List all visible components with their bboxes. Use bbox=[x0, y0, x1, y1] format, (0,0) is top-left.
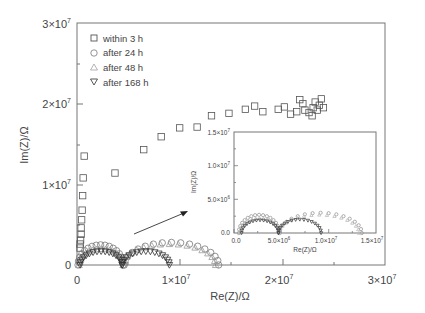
square-marker-icon bbox=[78, 217, 84, 223]
inset-plot: 0.0 5.0×106 1.0×107 1.5×107 0.0 5.0×106 … bbox=[190, 128, 384, 255]
square-marker-icon bbox=[294, 109, 300, 115]
main-y-tick-labels: 0 1×107 2×107 3×107 bbox=[42, 17, 71, 271]
square-marker-icon bbox=[208, 113, 214, 119]
triangle-down-marker-icon bbox=[91, 79, 98, 85]
y-tick-1e7: 1×107 bbox=[42, 178, 71, 191]
legend-item-after-48h: after 48 h bbox=[91, 62, 144, 73]
x-tick-0: 0 bbox=[74, 274, 80, 286]
square-marker-icon bbox=[176, 125, 182, 131]
x-tick-3e7: 3×107 bbox=[368, 273, 397, 286]
main-x-tick-labels: 0 1×107 2×107 3×107 bbox=[74, 273, 397, 286]
x-axis-title: Re(Z)/Ω bbox=[210, 290, 249, 302]
square-marker-icon bbox=[318, 96, 324, 102]
square-marker-icon bbox=[242, 106, 248, 112]
svg-text:1.0×107: 1.0×107 bbox=[207, 161, 230, 169]
x-tick-1e7: 1×107 bbox=[162, 273, 191, 286]
square-marker-icon bbox=[81, 153, 87, 159]
y-tick-0: 0 bbox=[65, 259, 71, 271]
svg-text:0.0: 0.0 bbox=[231, 237, 240, 244]
square-marker-icon bbox=[79, 192, 85, 198]
square-marker-icon bbox=[80, 175, 86, 181]
square-marker-icon bbox=[158, 134, 164, 140]
square-marker-icon bbox=[112, 170, 118, 176]
legend-item-within-3h: within 3 h bbox=[91, 33, 143, 44]
nyquist-plot: 0 1×107 2×107 3×107 0 1×107 2×107 3×107 … bbox=[0, 0, 425, 313]
svg-text:1.0×107: 1.0×107 bbox=[315, 236, 338, 244]
square-marker-icon bbox=[287, 111, 293, 117]
svg-text:1.5×107: 1.5×107 bbox=[361, 236, 384, 244]
svg-text:after 24 h: after 24 h bbox=[103, 47, 143, 58]
legend-item-after-24h: after 24 h bbox=[91, 47, 143, 58]
svg-text:after 48 h: after 48 h bbox=[103, 62, 143, 73]
y-tick-2e7: 2×107 bbox=[42, 97, 71, 110]
legend: within 3 h after 24 h after 48 h after 1… bbox=[91, 33, 149, 88]
square-marker-icon bbox=[141, 146, 147, 152]
square-marker-icon bbox=[251, 103, 257, 109]
square-marker-icon bbox=[194, 124, 200, 130]
inset-arrow bbox=[134, 211, 188, 234]
y-tick-3e7: 3×107 bbox=[42, 17, 71, 30]
svg-text:within 3 h: within 3 h bbox=[102, 33, 143, 44]
svg-text:after 168 h: after 168 h bbox=[103, 77, 148, 88]
x-tick-2e7: 2×107 bbox=[265, 273, 294, 286]
square-marker-icon bbox=[226, 110, 232, 116]
square-marker-icon bbox=[78, 225, 84, 231]
square-marker-icon bbox=[281, 104, 287, 110]
svg-text:5.0×106: 5.0×106 bbox=[207, 195, 230, 203]
y-axis-title: Im(Z)/Ω bbox=[18, 126, 30, 164]
triangle-up-marker-icon bbox=[91, 64, 98, 70]
square-marker-icon bbox=[302, 107, 308, 113]
square-marker-icon bbox=[77, 241, 83, 247]
square-marker-icon bbox=[320, 105, 326, 111]
square-marker-icon bbox=[91, 35, 97, 41]
svg-text:1.5×107: 1.5×107 bbox=[207, 128, 230, 136]
square-marker-icon bbox=[275, 106, 281, 112]
circle-marker-icon bbox=[91, 50, 97, 56]
svg-text:0.0: 0.0 bbox=[221, 229, 230, 236]
inset-x-tick-labels: 0.0 5.0×106 1.0×107 1.5×107 bbox=[231, 236, 383, 244]
svg-text:5.0×106: 5.0×106 bbox=[268, 236, 291, 244]
inset-y-tick-labels: 0.0 5.0×106 1.0×107 1.5×107 bbox=[207, 128, 230, 237]
inset-x-axis-title: Re(Z)/Ω bbox=[293, 246, 316, 254]
square-marker-icon bbox=[79, 207, 85, 213]
legend-item-after-168h: after 168 h bbox=[91, 77, 149, 88]
inset-y-axis-title: Im(Z)/Ω bbox=[190, 171, 198, 193]
square-marker-icon bbox=[260, 109, 266, 115]
